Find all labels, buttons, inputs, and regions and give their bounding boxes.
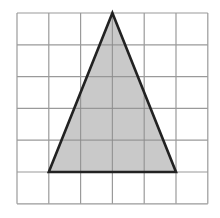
diagram-canvas <box>0 0 220 218</box>
grid-triangle-figure <box>0 0 220 218</box>
